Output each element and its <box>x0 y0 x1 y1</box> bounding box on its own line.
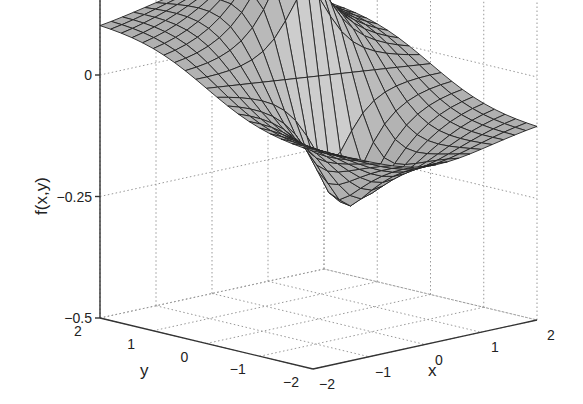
z-axis-label: f(x,y) <box>32 177 51 215</box>
x-tick-label: −2 <box>319 376 335 392</box>
x-tick-label: −1 <box>375 364 391 380</box>
x-axis-label: x <box>428 361 437 380</box>
grid-line <box>207 295 431 344</box>
y-axis-label: y <box>140 361 149 380</box>
z-tick-label: −0.25 <box>57 189 93 205</box>
y-tick-label: 0 <box>181 349 189 365</box>
x-tick-label: 1 <box>491 339 499 355</box>
z-tick-label: 0 <box>84 67 92 83</box>
y-tick-label: −2 <box>283 374 299 390</box>
grid-line <box>153 282 377 331</box>
surface-mesh <box>100 0 537 206</box>
y-tick-label: 1 <box>127 336 135 352</box>
y-tick-label: −1 <box>230 361 246 377</box>
y-tick-label: 2 <box>74 323 82 339</box>
surface-plot: −0.5−0.2500.250.5−2−1012−2−1012 x y f(x,… <box>0 0 583 404</box>
x-axis-line <box>313 320 537 369</box>
surface-plot-figure: −0.5−0.2500.250.5−2−1012−2−1012 x y f(x,… <box>0 0 583 404</box>
grid-line <box>212 294 425 345</box>
x-tick-label: 2 <box>547 327 555 343</box>
